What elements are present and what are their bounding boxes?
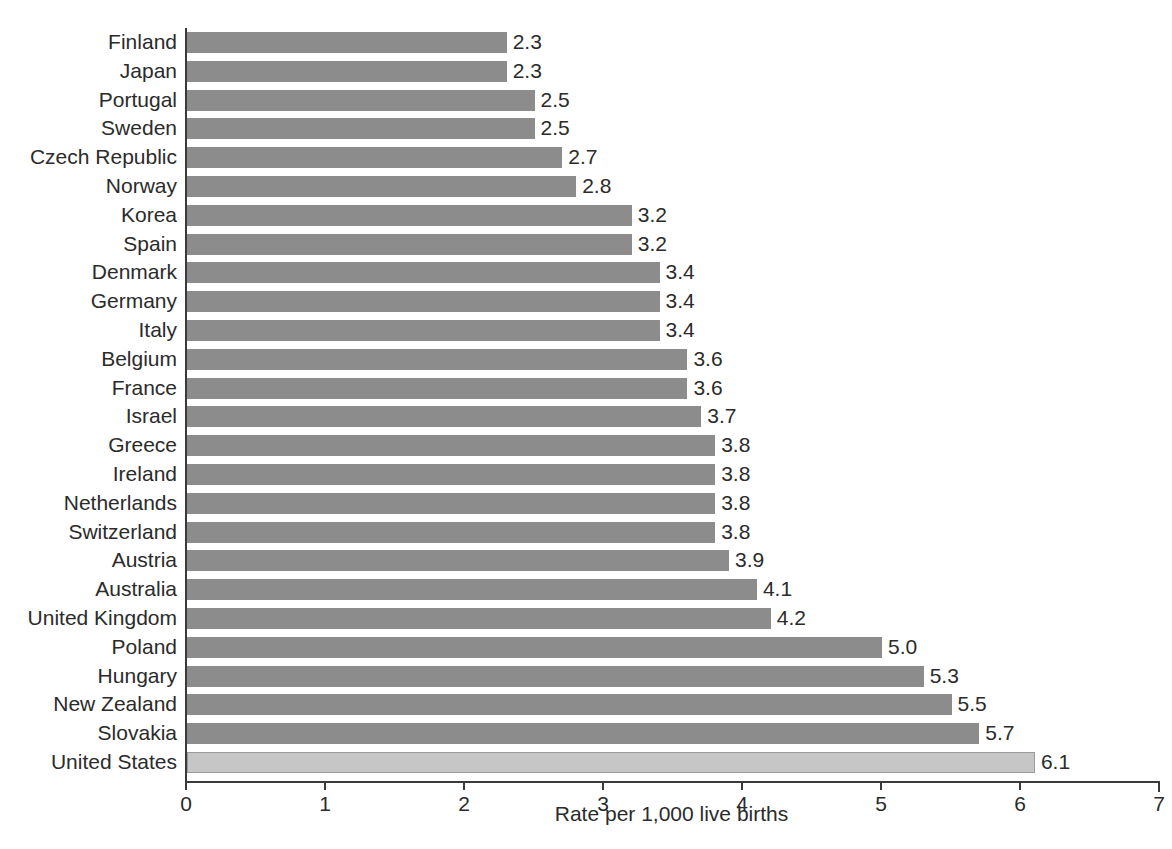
bar-row: Japan2.3	[0, 57, 1172, 86]
bar-row: Netherlands3.8	[0, 489, 1172, 518]
bar	[187, 262, 660, 283]
category-label: Denmark	[0, 258, 177, 287]
bar-row: Portugal2.5	[0, 86, 1172, 115]
bar-value-label: 2.3	[513, 28, 542, 57]
category-label: Czech Republic	[0, 143, 177, 172]
category-label: France	[0, 374, 177, 403]
category-label: Netherlands	[0, 489, 177, 518]
bar-value-label: 3.8	[721, 518, 750, 547]
bar	[187, 406, 701, 427]
bar-row: Sweden2.5	[0, 114, 1172, 143]
bar	[187, 550, 729, 571]
bar	[187, 752, 1035, 773]
x-axis-tick	[1158, 781, 1160, 792]
bar-row: Italy3.4	[0, 316, 1172, 345]
category-label: Germany	[0, 287, 177, 316]
bar-value-label: 5.0	[888, 633, 917, 662]
bar-value-label: 3.4	[666, 287, 695, 316]
bar	[187, 435, 715, 456]
x-axis-tick	[741, 781, 743, 790]
bar-value-label: 5.7	[985, 719, 1014, 748]
bar-value-label: 2.5	[541, 86, 570, 115]
bar-value-label: 3.8	[721, 431, 750, 460]
bar-row: Slovakia5.7	[0, 719, 1172, 748]
bar-value-label: 2.7	[568, 143, 597, 172]
bar-row: Czech Republic2.7	[0, 143, 1172, 172]
bar	[187, 522, 715, 543]
bar	[187, 637, 882, 658]
bar-value-label: 3.6	[693, 374, 722, 403]
bar-value-label: 3.8	[721, 460, 750, 489]
bar-value-label: 2.3	[513, 57, 542, 86]
bar	[187, 176, 576, 197]
bar-value-label: 3.4	[666, 316, 695, 345]
category-label: Portugal	[0, 86, 177, 115]
x-axis-tick	[185, 781, 187, 790]
bar	[187, 723, 979, 744]
category-label: Switzerland	[0, 518, 177, 547]
bar-row: Austria3.9	[0, 546, 1172, 575]
bar-row: Korea3.2	[0, 201, 1172, 230]
category-label: United Kingdom	[0, 604, 177, 633]
bar-value-label: 3.4	[666, 258, 695, 287]
category-label: Spain	[0, 230, 177, 259]
category-label: Austria	[0, 546, 177, 575]
bar-value-label: 3.2	[638, 201, 667, 230]
bar	[187, 464, 715, 485]
category-label: Japan	[0, 57, 177, 86]
category-label: United States	[0, 748, 177, 777]
bar-row: Germany3.4	[0, 287, 1172, 316]
x-axis-tick	[463, 781, 465, 790]
bar-row: Norway2.8	[0, 172, 1172, 201]
bar	[187, 608, 771, 629]
bar-row: Belgium3.6	[0, 345, 1172, 374]
bar-value-label: 6.1	[1041, 748, 1070, 777]
bar-value-label: 2.5	[541, 114, 570, 143]
bar-value-label: 2.8	[582, 172, 611, 201]
bar	[187, 90, 535, 111]
bar	[187, 291, 660, 312]
bar-value-label: 3.7	[707, 402, 736, 431]
category-label: Hungary	[0, 662, 177, 691]
category-label: Poland	[0, 633, 177, 662]
category-label: Ireland	[0, 460, 177, 489]
bar-row: Poland5.0	[0, 633, 1172, 662]
bar-value-label: 3.2	[638, 230, 667, 259]
bar	[187, 666, 924, 687]
bar-row: Denmark3.4	[0, 258, 1172, 287]
category-label: Slovakia	[0, 719, 177, 748]
bar	[187, 118, 535, 139]
bar	[187, 694, 952, 715]
category-label: Sweden	[0, 114, 177, 143]
bar	[187, 349, 687, 370]
bar-row: Spain3.2	[0, 230, 1172, 259]
category-label: Korea	[0, 201, 177, 230]
bar-value-label: 3.8	[721, 489, 750, 518]
category-label: Greece	[0, 431, 177, 460]
bar	[187, 320, 660, 341]
bar	[187, 32, 507, 53]
category-label: New Zealand	[0, 690, 177, 719]
x-axis-tick	[880, 781, 882, 790]
x-axis-line	[185, 781, 1159, 783]
category-label: Israel	[0, 402, 177, 431]
category-label: Australia	[0, 575, 177, 604]
bar-row: Finland2.3	[0, 28, 1172, 57]
bar	[187, 579, 757, 600]
x-axis-tick	[324, 781, 326, 790]
bar	[187, 493, 715, 514]
category-label: Finland	[0, 28, 177, 57]
x-axis-tick	[1019, 781, 1021, 790]
bar-value-label: 4.2	[777, 604, 806, 633]
bar-value-label: 3.9	[735, 546, 764, 575]
bar	[187, 234, 632, 255]
category-label: Norway	[0, 172, 177, 201]
bar-value-label: 5.5	[958, 690, 987, 719]
bar-value-label: 5.3	[930, 662, 959, 691]
bar-value-label: 4.1	[763, 575, 792, 604]
bar-row: Ireland3.8	[0, 460, 1172, 489]
bar-row: United States6.1	[0, 748, 1172, 777]
bar-row: France3.6	[0, 374, 1172, 403]
bar-value-label: 3.6	[693, 345, 722, 374]
bar	[187, 61, 507, 82]
